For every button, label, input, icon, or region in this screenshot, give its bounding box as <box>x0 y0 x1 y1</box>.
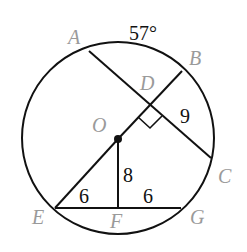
circle-diagram: A B C D O E F G 57° 9 8 6 6 <box>0 0 247 252</box>
label-O: O <box>92 114 106 136</box>
label-B: B <box>189 47 201 69</box>
label-A: A <box>66 26 81 48</box>
label-F: F <box>109 210 123 232</box>
measure-EF: 6 <box>79 185 89 207</box>
right-angle-marker <box>138 116 162 128</box>
measure-OF: 8 <box>123 164 133 186</box>
arc-AB-measure: 57° <box>129 22 157 44</box>
label-E: E <box>31 206 44 228</box>
center-point <box>114 135 122 143</box>
measure-FG: 6 <box>143 185 153 207</box>
label-C: C <box>218 165 232 187</box>
label-G: G <box>190 206 205 228</box>
label-D: D <box>139 72 155 94</box>
measure-DC: 9 <box>180 105 190 127</box>
